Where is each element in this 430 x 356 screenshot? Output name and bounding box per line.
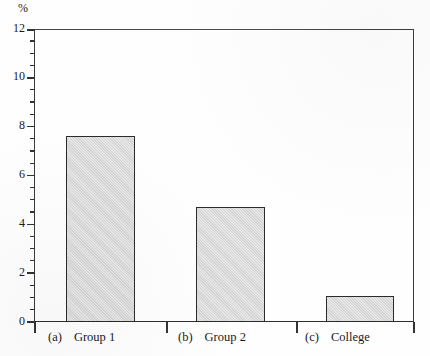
- y-axis-label-6: 6: [1, 168, 25, 180]
- bar-group-2: [196, 207, 265, 322]
- y-tick-major-8: [27, 126, 35, 128]
- y-axis-label-10: 10: [1, 70, 25, 82]
- x-tick-end: [413, 322, 415, 333]
- y-tick-major-10: [27, 77, 35, 79]
- y-tick-minor: [30, 40, 35, 41]
- y-tick-major-12: [27, 29, 35, 31]
- y-tick-minor: [30, 187, 35, 188]
- bar-chart: % 0 2 4 6 8 10 12 (a)Group 1: [0, 0, 430, 356]
- bar-college: [326, 296, 394, 322]
- x-tick-separator-2: [296, 322, 298, 333]
- category-tag-c: (c): [305, 330, 319, 344]
- y-axis-label-12: 12: [1, 22, 25, 34]
- y-tick-minor: [30, 89, 35, 90]
- y-tick-minor: [30, 211, 35, 212]
- category-name-group-2: Group 2: [205, 330, 246, 344]
- x-tick-start: [34, 322, 36, 333]
- y-tick-minor: [30, 199, 35, 200]
- y-tick-minor: [30, 101, 35, 102]
- category-name-college: College: [331, 330, 370, 344]
- category-name-group-1: Group 1: [74, 330, 115, 344]
- category-tag-b: (b): [178, 330, 193, 344]
- y-axis-label-8: 8: [1, 119, 25, 131]
- y-axis-label-2: 2: [1, 266, 25, 278]
- category-tag-a: (a): [48, 330, 62, 344]
- x-axis-label-group-2: (b)Group 2: [178, 330, 246, 344]
- y-tick-minor: [30, 138, 35, 139]
- y-axis-unit-label: %: [18, 2, 29, 14]
- y-tick-minor: [30, 163, 35, 164]
- y-tick-major-6: [27, 175, 35, 177]
- y-tick-minor: [30, 114, 35, 115]
- y-tick-minor: [30, 285, 35, 286]
- y-tick-minor: [30, 236, 35, 237]
- y-tick-major-4: [27, 224, 35, 226]
- bar-group-1: [66, 136, 135, 322]
- y-tick-minor: [30, 248, 35, 249]
- y-tick-minor: [30, 53, 35, 54]
- y-axis-label-4: 4: [1, 217, 25, 229]
- plot-top-rule: [35, 29, 414, 30]
- x-tick-separator-1: [166, 322, 168, 333]
- x-axis-label-college: (c)College: [305, 330, 370, 344]
- y-tick-minor: [30, 150, 35, 151]
- y-tick-minor: [30, 65, 35, 66]
- y-tick-minor: [30, 297, 35, 298]
- x-axis-label-group-1: (a)Group 1: [48, 330, 115, 344]
- y-axis-label-0: 0: [1, 315, 25, 327]
- y-tick-minor: [30, 309, 35, 310]
- y-tick-minor: [30, 260, 35, 261]
- y-tick-major-2: [27, 272, 35, 274]
